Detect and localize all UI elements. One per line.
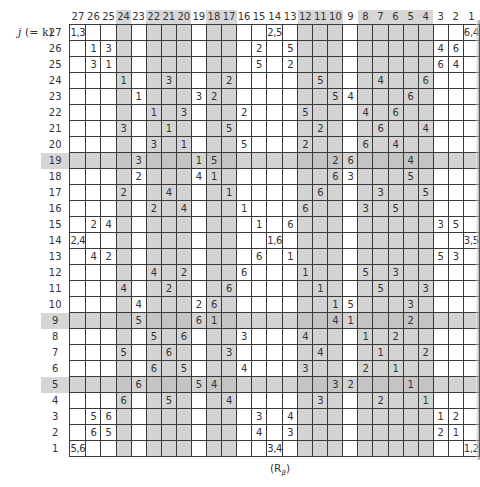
table-cell (86, 233, 101, 249)
table-cell (70, 153, 86, 169)
table-cell (388, 41, 403, 57)
table-cell (86, 25, 101, 41)
table-cell (373, 169, 388, 185)
table-cell (221, 313, 236, 329)
table-cell (86, 329, 101, 345)
table-cell (237, 393, 252, 409)
table-cell (237, 217, 252, 233)
table-cell: 5 (373, 281, 388, 297)
table-cell (388, 57, 403, 73)
table-cell (267, 377, 283, 393)
table-cell (191, 441, 206, 457)
table-cell (70, 73, 86, 89)
table-cell (161, 313, 176, 329)
table-cell (161, 265, 176, 281)
table-cell: 4 (191, 169, 206, 185)
column-header-6: 6 (388, 10, 403, 25)
table-cell (146, 345, 161, 361)
table-cell (448, 377, 463, 393)
table-cell (267, 137, 283, 153)
table-cell (161, 25, 176, 41)
table-cell (403, 441, 418, 457)
table-cell: 5 (343, 297, 358, 313)
table-cell: 4 (388, 137, 403, 153)
table-cell (206, 41, 221, 57)
table-cell: 1,6 (267, 233, 283, 249)
table-cell: 4 (403, 153, 418, 169)
table-cell (418, 377, 433, 393)
table-cell (146, 25, 161, 41)
table-cell (418, 313, 433, 329)
table-cell (267, 105, 283, 121)
table-cell (313, 441, 328, 457)
table-cell (418, 41, 433, 57)
table-cell (298, 313, 313, 329)
table-cell (131, 281, 146, 297)
table-cell: 6 (252, 249, 267, 265)
table-cell (206, 441, 221, 457)
table-cell (298, 89, 313, 105)
table-row: 142,41,63,5 (41, 233, 480, 249)
table-cell (116, 105, 131, 121)
column-header-row: 2726252423222120191817161514131211109876… (41, 10, 480, 25)
table-cell (358, 89, 373, 105)
table-cell (191, 121, 206, 137)
table-cell: 4 (252, 425, 267, 441)
table-cell (161, 233, 176, 249)
column-header-22: 22 (146, 10, 161, 25)
table-cell (206, 409, 221, 425)
table-cell (116, 441, 131, 457)
table-cell (388, 377, 403, 393)
table-cell: 5 (116, 345, 131, 361)
table-cell (418, 89, 433, 105)
table-cell (343, 41, 358, 57)
table-cell (267, 265, 283, 281)
table-cell (191, 425, 206, 441)
table-cell (267, 201, 283, 217)
table-cell (298, 153, 313, 169)
table-cell (328, 233, 343, 249)
table-cell (237, 441, 252, 457)
table-cell (70, 201, 86, 217)
table-cell: 4 (86, 249, 101, 265)
table-cell: 5 (221, 121, 236, 137)
table-cell: 1 (206, 313, 221, 329)
table-cell (101, 201, 116, 217)
table-cell (221, 409, 236, 425)
table-cell (70, 313, 86, 329)
page-edge-shadow (476, 20, 480, 460)
row-header-21: 21 (41, 121, 70, 137)
table-cell (298, 377, 313, 393)
table-cell (267, 329, 283, 345)
table-cell (343, 265, 358, 281)
table-row: 26132546 (41, 41, 480, 57)
table-cell (86, 169, 101, 185)
table-cell (206, 233, 221, 249)
column-header-19: 19 (191, 10, 206, 25)
table-cell (358, 233, 373, 249)
table-cell (206, 57, 221, 73)
table-cell (448, 73, 463, 89)
table-cell: 2 (221, 73, 236, 89)
table-cell (131, 409, 146, 425)
column-header-16: 16 (237, 10, 252, 25)
table-row: 271,32,56,4 (41, 25, 480, 41)
table-cell (433, 345, 448, 361)
table-cell (252, 345, 267, 361)
table-cell (176, 297, 191, 313)
table-cell (373, 313, 388, 329)
table-cell (283, 169, 298, 185)
table-cell (101, 297, 116, 313)
table-cell: 6 (448, 41, 463, 57)
table-cell (101, 105, 116, 121)
table-cell (343, 441, 358, 457)
column-header-25: 25 (101, 10, 116, 25)
table-row: 25315264 (41, 57, 480, 73)
table-cell: 3 (403, 297, 418, 313)
table-cell (206, 265, 221, 281)
table-cell: 6 (343, 153, 358, 169)
table-cell (101, 393, 116, 409)
column-header-24: 24 (116, 10, 131, 25)
table-cell (388, 25, 403, 41)
table-cell (252, 265, 267, 281)
